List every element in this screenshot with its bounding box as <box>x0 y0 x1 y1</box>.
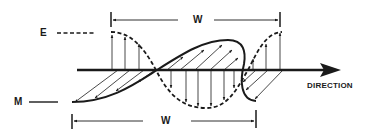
direction-label: DIRECTION <box>307 82 353 90</box>
direction-axis <box>77 63 341 77</box>
electric-field-label: E <box>40 28 47 38</box>
m-field-vectors <box>75 45 283 102</box>
wavelength-label-top: W <box>193 15 202 25</box>
em-wave-diagram <box>0 0 373 137</box>
magnetic-field-label: M <box>14 97 22 107</box>
wavelength-label-bottom: W <box>161 116 170 126</box>
